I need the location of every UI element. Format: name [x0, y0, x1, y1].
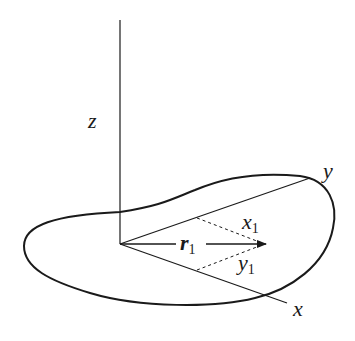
- x1-label: x1: [242, 211, 259, 236]
- y1-label: y1: [238, 252, 255, 277]
- diagram-svg: [0, 0, 355, 341]
- diagram-canvas: z y x r1 x1 y1: [0, 0, 355, 341]
- r1-label: r1: [180, 232, 196, 257]
- z-axis-label: z: [88, 110, 97, 132]
- x-axis-label: x: [293, 298, 303, 320]
- y-axis-label: y: [323, 160, 333, 182]
- y-axis-line: [120, 178, 310, 244]
